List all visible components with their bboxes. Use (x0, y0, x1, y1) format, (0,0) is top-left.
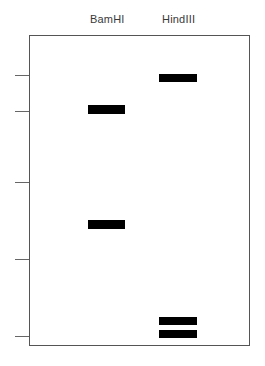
hindiii-band-2 (159, 317, 197, 325)
bamhi-band-1 (88, 105, 125, 114)
lane-label-bamhi: BamHI (90, 13, 125, 25)
marker-tick-3 (15, 182, 29, 183)
marker-tick-1 (15, 75, 29, 76)
marker-tick-5 (15, 336, 29, 337)
hindiii-band-1 (159, 74, 197, 82)
marker-tick-4 (15, 259, 29, 260)
marker-tick-2 (15, 111, 29, 112)
gel-frame (29, 35, 250, 346)
bamhi-band-2 (88, 220, 125, 229)
lane-label-hindiii: HindIII (162, 13, 195, 25)
hindiii-band-3 (159, 330, 197, 338)
